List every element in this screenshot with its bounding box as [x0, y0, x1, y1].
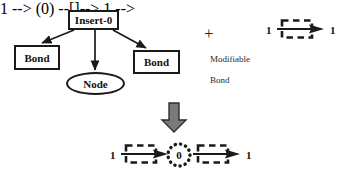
node-insert-0-label: Insert-0	[75, 14, 112, 26]
diagram-canvas: Insert-0 Bond Node Bond + Modifiable Bon…	[0, 0, 344, 176]
edge-insert-to-right-bond	[113, 30, 146, 48]
node-node-label: Node	[83, 78, 107, 90]
edge-insert-to-left-bond	[42, 30, 74, 43]
node-bond-left: Bond	[14, 45, 60, 70]
input-left-label: 1	[266, 24, 272, 36]
annotation-line-1: Modifiable	[210, 54, 250, 64]
node-bond-right: Bond	[133, 50, 180, 74]
node-bond-right-label: Bond	[144, 56, 169, 68]
output-left-label: 1	[110, 149, 116, 161]
output-center-node: 0	[165, 141, 193, 169]
modifiable-bond-arrow-icon-top	[276, 17, 328, 43]
annotation-modifiable-bond: Modifiable Bond	[210, 44, 250, 96]
node-bond-left-label: Bond	[24, 52, 49, 64]
input-right-label: 1	[330, 24, 336, 36]
plus-operator: +	[204, 24, 214, 44]
node-node: Node	[66, 72, 125, 95]
modifiable-bond-arrow-icon-right	[192, 142, 244, 168]
plus-operator-label: +	[204, 24, 214, 43]
node-insert-0: Insert-0	[68, 10, 119, 30]
output-right-label: 1	[246, 149, 252, 161]
output-center-label: 0	[176, 149, 182, 161]
down-block-arrow-icon	[160, 102, 188, 134]
annotation-line-2: Bond	[210, 75, 250, 85]
